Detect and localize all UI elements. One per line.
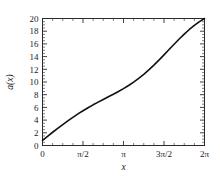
y-tick-label: 6 [34,103,39,113]
y-tick-label: 8 [34,90,39,100]
x-tick-label: 2π [200,149,210,159]
data-series-curve [43,19,205,141]
x-tick-label: 0 [40,149,45,159]
x-tick-label: π [121,149,126,159]
figure-container: 02468101214161820 0π/2π3π/22π x a(x) [0,0,220,177]
y-tick-label: 0 [34,141,39,151]
y-tick-label: 14 [30,52,40,62]
y-tick-label: 2 [34,128,39,138]
x-tick-label: π/2 [77,149,89,159]
x-axis-title: x [120,162,126,172]
line-chart: 02468101214161820 0π/2π3π/22π x a(x) [0,0,220,177]
x-tick-label: 3π/2 [156,149,172,159]
y-tick-label: 18 [30,26,40,36]
x-axis-tick-labels: 0π/2π3π/22π [40,149,209,159]
y-tick-label: 12 [30,65,39,75]
y-tick-label: 20 [30,14,40,24]
x-axis-minor-ticks [53,19,195,146]
y-tick-label: 10 [30,77,40,87]
y-axis-title: a(x) [5,74,16,89]
y-tick-label: 16 [30,39,40,49]
y-axis-minor-ticks [43,22,205,143]
y-tick-label: 4 [34,115,39,125]
y-axis-tick-labels: 02468101214161820 [30,14,40,151]
